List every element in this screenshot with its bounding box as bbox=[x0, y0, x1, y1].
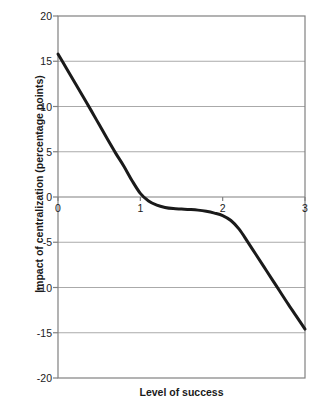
x-tick-label: 1 bbox=[130, 203, 150, 213]
x-axis-title: Level of success bbox=[58, 386, 305, 398]
x-axis-tick-labels: 0123 bbox=[0, 0, 323, 410]
x-tick-label: 0 bbox=[48, 203, 68, 213]
x-tick-label: 3 bbox=[295, 203, 315, 213]
x-tick-label: 2 bbox=[213, 203, 233, 213]
y-axis-title: Impact of centralization (percentage poi… bbox=[33, 29, 45, 339]
chart-container: 20151050-5-10-15-20 0123 Impact of centr… bbox=[0, 0, 323, 410]
